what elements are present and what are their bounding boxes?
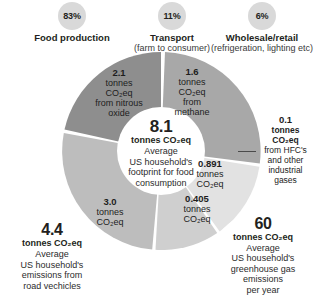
- percent-badge: 6%: [248, 2, 276, 30]
- callout-unit: tonnes CO₂eq: [22, 238, 82, 249]
- hfc-source-2: and other: [252, 155, 319, 165]
- callout-value: 60: [254, 215, 271, 232]
- callout-line-3: greenhouse gas: [231, 264, 296, 275]
- wedge-unit-2: CO₂eq: [86, 88, 152, 98]
- callout-value: 4.4: [41, 221, 62, 238]
- callout-line-2: US household's: [21, 260, 84, 271]
- callout-line-4: road vechicles: [23, 281, 81, 292]
- wedge-value: 2.1: [86, 67, 152, 78]
- wedge-unit-2: CO₂eq: [168, 214, 226, 224]
- percent-badge: 11%: [158, 2, 186, 30]
- wedge-label-methane: 1.6 tonnes CO₂eq from methane: [163, 66, 221, 117]
- callout-line-1: Average: [35, 249, 68, 260]
- callout-total-ghg: 60 tonnes CO₂eq Average US household's g…: [213, 212, 313, 298]
- callout-line-5: per year: [246, 285, 279, 296]
- wedge-unit-1: tonnes: [163, 77, 221, 87]
- wedge-source-1: from nitrous: [86, 98, 152, 108]
- wedge-label-co2-large: 0.891 tonnes CO₂eq: [180, 158, 240, 189]
- wedge-value: 3.0: [78, 196, 142, 207]
- wedge-value: 1.6: [163, 66, 221, 77]
- callout-line-3: emissions from: [22, 270, 83, 281]
- callout-road-vehicles: 4.4 tonnes CO₂eq Average US household's …: [0, 210, 108, 298]
- wedge-unit-2: CO₂eq: [180, 179, 240, 189]
- wedge-unit-1: tonnes: [180, 169, 240, 179]
- wedge-source-2: methane: [163, 107, 221, 117]
- center-unit: tonnes CO₂eq: [116, 135, 206, 146]
- center-value: 8.1: [116, 118, 206, 135]
- hfc-source-1: from HFC's: [252, 145, 319, 155]
- breakdown-label: Wholesale/retail: [205, 32, 319, 43]
- center-desc-line-1: Average: [116, 146, 206, 157]
- hfc-unit-1: tonnes: [252, 125, 319, 135]
- wedge-unit-1: tonnes: [78, 207, 142, 217]
- wedge-unit-1: tonnes: [86, 78, 152, 88]
- hfc-unit-2: CO₂eq: [252, 135, 319, 145]
- hfc-callout: 0.1 tonnes CO₂eq from HFC's and other in…: [252, 114, 319, 185]
- breakdown-item-wholesale-retail: 6% Wholesale/retail (refrigeration, ligh…: [205, 2, 319, 54]
- callout-line-4: emissions: [243, 274, 283, 285]
- callout-unit: tonnes CO₂eq: [233, 232, 293, 243]
- wedge-unit-1: tonnes: [168, 204, 226, 214]
- callout-line-1: Average: [246, 243, 279, 254]
- callout-line-2: US household's: [232, 253, 295, 264]
- wedge-source-2: oxide: [86, 108, 152, 118]
- hfc-source-3: industrial: [252, 165, 319, 175]
- wedge-value: 0.891: [180, 158, 240, 169]
- infographic-root: 83% Food production 11% Transport (farm …: [0, 0, 319, 298]
- wedge-value: 0.405: [168, 193, 226, 204]
- top-breakdown-row: 83% Food production 11% Transport (farm …: [0, 2, 319, 50]
- percent-badge: 83%: [58, 2, 86, 30]
- hfc-source-4: gases: [252, 175, 319, 185]
- wedge-label-co2-mid: 0.405 tonnes CO₂eq: [168, 193, 226, 224]
- wedge-source-1: from: [163, 97, 221, 107]
- wedge-label-nitrous-oxide: 2.1 tonnes CO₂eq from nitrous oxide: [86, 67, 152, 118]
- wedge-unit-2: CO₂eq: [163, 87, 221, 97]
- hfc-value: 0.1: [252, 114, 319, 125]
